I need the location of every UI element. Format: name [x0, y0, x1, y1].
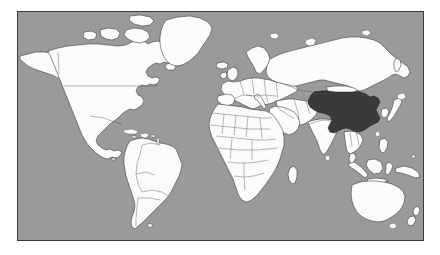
region-iceland: [216, 62, 228, 69]
map-frame: [17, 11, 424, 241]
region-puerto-rico: [151, 135, 155, 137]
region-jamaica: [132, 136, 136, 138]
figure-root: [0, 0, 440, 255]
region-pacific-islands: [412, 155, 415, 158]
world-map-svg: [18, 12, 423, 240]
region-galapagos: [112, 158, 115, 160]
region-lesser-antilles: [157, 138, 159, 144]
region-falklands: [148, 224, 152, 227]
